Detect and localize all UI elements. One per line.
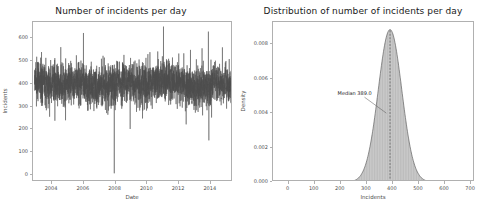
right-y-tick-mark: [270, 78, 273, 79]
left-y-tick-label: 400: [10, 80, 28, 86]
left-y-tick-label: 600: [10, 34, 28, 40]
left-y-tick-mark: [30, 151, 33, 152]
left-y-tick-mark: [30, 60, 33, 61]
right-x-tick-mark: [392, 181, 393, 184]
left-x-tick-label: 2014: [203, 185, 216, 191]
right-x-tick-label: 100: [309, 185, 319, 191]
left-y-tick-mark: [30, 83, 33, 84]
right-y-tick-mark: [270, 181, 273, 182]
right-x-tick-label: 700: [465, 185, 475, 191]
right-y-tick-label: 0.000: [248, 178, 268, 184]
right-x-tick-mark: [444, 181, 445, 184]
right-x-tick-label: 200: [335, 185, 345, 191]
right-y-tick-label: 0.008: [248, 40, 268, 46]
figure-canvas: Number of incidents per day 010020030040…: [0, 0, 484, 218]
median-annotation-label: Median 389.0: [338, 90, 372, 96]
left-x-tick-label: 2010: [140, 185, 153, 191]
left-y-tick-mark: [30, 106, 33, 107]
left-y-tick-label: 300: [10, 103, 28, 109]
left-x-tick-label: 2008: [108, 185, 121, 191]
right-x-tick-mark: [288, 181, 289, 184]
right-x-tick-label: 500: [413, 185, 423, 191]
right-y-axis-label: Density: [240, 91, 246, 112]
right-y-tick-label: 0.004: [248, 109, 268, 115]
right-y-tick-label: 0.002: [248, 144, 268, 150]
right-chart-title: Distribution of number of incidents per …: [242, 6, 484, 16]
left-series-plot: [33, 22, 232, 181]
incidents-line: [35, 27, 232, 174]
left-x-tick-label: 2012: [172, 185, 185, 191]
right-axes-frame: [272, 21, 474, 181]
left-y-tick-mark: [30, 37, 33, 38]
left-y-tick-mark: [30, 174, 33, 175]
panel-time-series: Number of incidents per day 010020030040…: [0, 0, 242, 218]
right-density-plot: [273, 22, 474, 181]
left-x-tick-mark: [51, 181, 52, 184]
left-x-tick-mark: [115, 181, 116, 184]
right-x-tick-mark: [314, 181, 315, 184]
right-x-tick-label: 300: [361, 185, 371, 191]
right-x-tick-mark: [418, 181, 419, 184]
right-y-tick-label: 0.006: [248, 75, 268, 81]
right-x-tick-label: 0: [286, 185, 289, 191]
left-chart-title: Number of incidents per day: [0, 6, 242, 16]
left-x-tick-label: 2004: [45, 185, 58, 191]
right-y-tick-mark: [270, 112, 273, 113]
right-x-tick-mark: [366, 181, 367, 184]
right-x-axis-label: Incidents: [360, 194, 385, 200]
right-x-tick-mark: [340, 181, 341, 184]
left-y-tick-label: 100: [10, 148, 28, 154]
left-x-tick-mark: [83, 181, 84, 184]
left-y-tick-label: 0: [10, 171, 28, 177]
left-y-axis-label: Incidents: [2, 88, 8, 113]
right-y-tick-mark: [270, 147, 273, 148]
density-area: [273, 30, 474, 181]
right-x-tick-mark: [470, 181, 471, 184]
right-y-tick-mark: [270, 43, 273, 44]
left-x-tick-mark: [210, 181, 211, 184]
left-x-axis-label: Date: [125, 194, 138, 200]
panel-distribution: Distribution of number of incidents per …: [242, 0, 484, 218]
left-y-tick-label: 200: [10, 125, 28, 131]
left-x-tick-mark: [146, 181, 147, 184]
left-y-tick-label: 500: [10, 57, 28, 63]
left-axes-frame: [32, 21, 232, 181]
right-x-tick-label: 600: [439, 185, 449, 191]
left-x-tick-mark: [178, 181, 179, 184]
left-y-tick-mark: [30, 128, 33, 129]
left-x-tick-label: 2006: [76, 185, 89, 191]
right-x-tick-label: 400: [387, 185, 397, 191]
